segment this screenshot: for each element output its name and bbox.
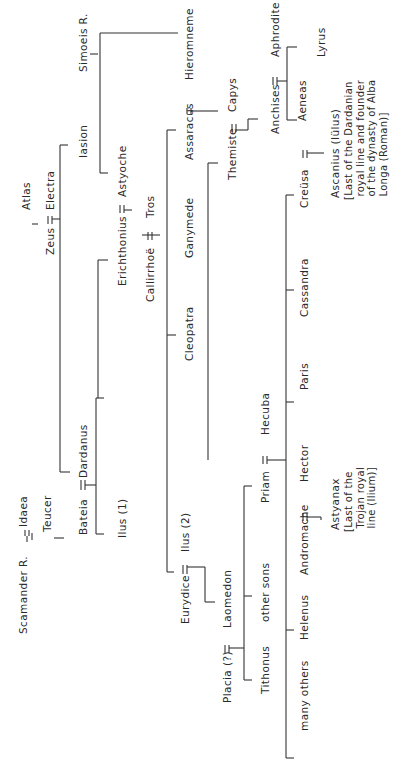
- person-cleopatra: Cleopatra: [184, 306, 195, 361]
- astyanax-note: [Last of the Trojan royal line (Ilium)]: [343, 467, 378, 532]
- person-iasion: Iasion: [78, 125, 89, 158]
- person-astyoche: Astyoche: [117, 146, 128, 198]
- person-hector: Hector: [299, 445, 310, 482]
- person-many-others: many others: [299, 660, 310, 731]
- person-lyrus: Lyrus: [316, 27, 327, 57]
- person-tithonus: Tithonus: [260, 646, 271, 694]
- person-creusa: Creüsa: [299, 169, 310, 208]
- person-priam: Priam: [260, 471, 271, 503]
- person-ganymede: Ganymede: [184, 198, 195, 258]
- person-assaracus: Assaracus: [184, 103, 195, 160]
- person-themiste: Themiste: [227, 128, 238, 180]
- person-helenus: Helenus: [299, 595, 310, 640]
- person-hieromneme: Hieromneme: [184, 8, 195, 80]
- person-other-sons: other sons: [260, 563, 271, 622]
- person-dardanus: Dardanus: [78, 424, 89, 478]
- person-idaea: Idaea: [18, 496, 29, 527]
- ascanius-note: [Last of the Dardanian royal line and fo…: [343, 80, 389, 200]
- person-cassandra: Cassandra: [299, 258, 310, 317]
- person-capys: Capys: [227, 78, 238, 112]
- person-tros: Tros: [145, 196, 156, 218]
- person-astyanax: Astyanax: [330, 478, 341, 530]
- person-simoeis: Simoeis R.: [78, 13, 89, 72]
- person-scamander: Scamander R.: [18, 556, 29, 634]
- person-placia: Placia (?): [222, 651, 233, 703]
- person-eurydice: Eurydice: [180, 575, 191, 624]
- person-ilus2: Ilus (2): [180, 512, 191, 552]
- person-hecuba: Hecuba: [260, 393, 271, 435]
- person-callirrhoe: Callirrhoë: [145, 248, 156, 302]
- person-ilus1: Ilus (1): [117, 498, 128, 538]
- person-electra: Electra: [45, 171, 56, 210]
- person-erichthonius: Erichthonius: [117, 216, 128, 286]
- person-laomedon: Laomedon: [222, 570, 233, 628]
- person-teucer: Teucer: [42, 495, 53, 532]
- person-andromache: Andromache: [299, 504, 310, 575]
- person-aeneas: Aeneas: [297, 80, 308, 121]
- person-zeus: Zeus: [45, 228, 56, 255]
- person-paris: Paris: [299, 363, 310, 390]
- person-anchises: Anchises: [270, 84, 281, 134]
- person-bateia: Bateia: [78, 499, 89, 535]
- person-aphrodite: Aphrodite: [270, 2, 281, 57]
- person-atlas: Atlas: [21, 182, 32, 210]
- person-ascanius: Ascanius (Iülus): [330, 109, 341, 198]
